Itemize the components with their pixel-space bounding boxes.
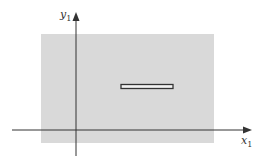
y-axis-arrow-icon xyxy=(73,12,80,21)
x-axis-arrow-icon xyxy=(243,127,252,134)
x-axis-label: x1 xyxy=(241,134,252,149)
horizontal-bar xyxy=(121,85,173,89)
y-axis-label: y1 xyxy=(60,8,71,23)
diagram-canvas xyxy=(0,0,265,163)
